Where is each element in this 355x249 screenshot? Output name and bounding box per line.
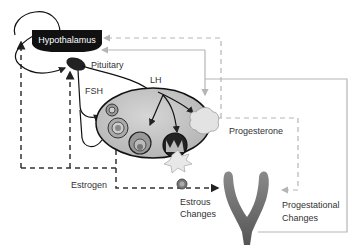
pituitary-label: Pituitary — [91, 60, 124, 70]
progestational-changes-label-line1: Progestational — [282, 200, 340, 210]
progestational-changes-label-line2: Changes — [282, 213, 318, 223]
estrous-changes-label-line2: Changes — [180, 209, 216, 219]
pituitary-node — [65, 55, 88, 73]
lh-label: LH — [150, 75, 162, 85]
progesterone-label: Progesterone — [229, 126, 283, 136]
estrogen-label: Estrogen — [71, 180, 107, 190]
estrous-changes-label-line1: Estrous — [180, 197, 211, 207]
uterus — [224, 172, 269, 245]
corpus-luteum — [190, 108, 219, 134]
fsh-label: FSH — [85, 86, 103, 96]
hypothalamus-label: Hypothalamus — [36, 34, 98, 46]
